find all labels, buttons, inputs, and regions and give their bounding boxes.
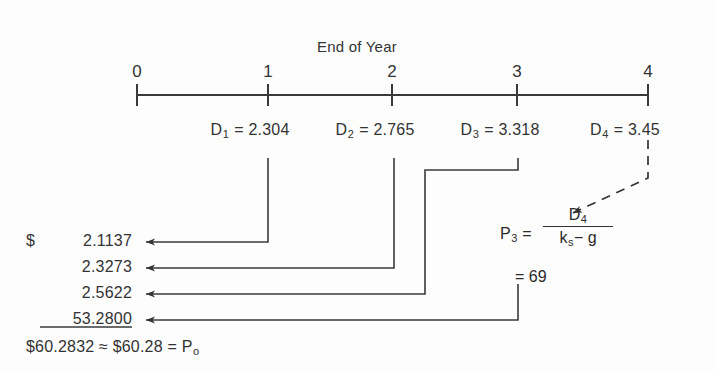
numerator-symbol: D	[569, 206, 581, 223]
denominator-rest: − g	[574, 229, 597, 246]
dividend-subscript-4: 4	[602, 128, 609, 140]
present-value-2: 2.3273	[22, 258, 132, 276]
terminal-value-result-number: 69	[529, 268, 547, 285]
fraction-bar	[543, 226, 613, 227]
dividend-label-2: D2 = 2.765	[336, 121, 415, 140]
connector-d3-to-pv3	[146, 158, 518, 294]
axis-tick-label-2: 2	[387, 62, 397, 82]
axis-tick-label-4: 4	[643, 62, 653, 82]
dividend-value-1: 2.304	[248, 121, 289, 138]
dividend-label-3: D3 = 3.318	[461, 121, 540, 140]
dividend-equals-1: =	[234, 121, 244, 138]
terminal-value-equals: =	[522, 225, 531, 242]
terminal-value-symbol: P	[500, 225, 511, 242]
present-value-4: 53.2800	[22, 310, 132, 328]
total-result-subscript: o	[193, 345, 200, 357]
approximately-equal-icon: ≈	[99, 338, 108, 355]
terminal-value-result: = 69	[515, 268, 547, 286]
figure-title: End of Year	[0, 38, 714, 55]
total-rounded: $60.28	[113, 338, 163, 355]
axis-tick-label-0: 0	[132, 62, 142, 82]
dashed-connector-d4-to-formula	[573, 140, 648, 213]
dividend-value-4: 3.45	[628, 121, 660, 138]
present-value-1: 2.1137	[22, 232, 132, 250]
dividend-label-4: D4 = 3.45	[590, 121, 660, 140]
dividend-value-3: 3.318	[498, 121, 539, 138]
dividend-symbol-3: D	[461, 121, 473, 138]
dividend-label-1: D1 = 2.304	[211, 121, 290, 140]
dividend-subscript-3: 3	[472, 128, 479, 140]
axis-tick-label-3: 3	[512, 62, 522, 82]
dividend-symbol-2: D	[336, 121, 348, 138]
cash-flow-timeline-figure: End of Year 0 1 2 3 4 D1 = 2.304 D2 = 2.…	[0, 0, 714, 374]
total-sum: $60.2832	[26, 338, 94, 355]
axis-tick-label-1: 1	[263, 62, 273, 82]
terminal-value-formula-lhs: P3 =	[500, 225, 532, 244]
dividend-equals-4: =	[614, 121, 624, 138]
connector-d1-to-pv1	[146, 158, 268, 242]
terminal-value-fraction: D4 ks− g	[543, 206, 613, 249]
dividend-equals-2: =	[359, 121, 369, 138]
numerator-subscript: 4	[580, 213, 587, 225]
dividend-subscript-1: 1	[222, 128, 229, 140]
dividend-subscript-2: 2	[347, 128, 354, 140]
connector-d2-to-pv2	[146, 158, 394, 268]
total-equals: =	[167, 338, 177, 355]
terminal-value-result-equals: =	[515, 268, 524, 285]
present-value-3: 2.5622	[22, 284, 132, 302]
dividend-symbol-4: D	[590, 121, 602, 138]
dividend-value-2: 2.765	[373, 121, 414, 138]
total-result-label: P	[182, 338, 193, 355]
dividend-symbol-1: D	[211, 121, 223, 138]
dividend-equals-3: =	[484, 121, 494, 138]
fraction-numerator: D4	[543, 206, 613, 225]
total-row: $60.2832 ≈ $60.28 = Po	[26, 338, 200, 357]
terminal-value-subscript: 3	[511, 232, 518, 244]
connector-p3-to-pv4	[146, 284, 518, 320]
fraction-denominator: ks− g	[543, 229, 613, 249]
